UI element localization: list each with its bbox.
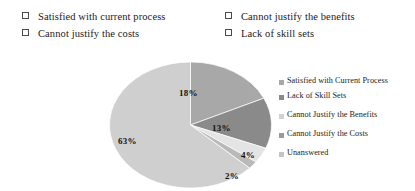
pie-slice-label-cannot-justify-benefits: 4%	[241, 150, 255, 160]
pie-slice-label-lack-of-skill-sets: 13%	[212, 123, 231, 133]
chart-area: 18% 13% 4% 2% 63% Satisfied with Current…	[0, 58, 415, 191]
checkbox-item-cannot-justify-the-benefits[interactable]: Cannot justify the benefits	[225, 8, 355, 25]
legend-label: Lack of Skill Sets	[287, 91, 346, 101]
legend-swatch-icon	[279, 95, 284, 100]
checkbox-label: Cannot justify the costs	[38, 25, 139, 42]
checkbox-list: Satisfied with current process Cannot ju…	[0, 8, 415, 50]
pie-slice-group	[110, 62, 272, 188]
legend-item-cannot-justify-the-benefits[interactable]: Cannot Justify the Benefits	[279, 110, 415, 120]
chart-legend: Satisfied with Current Process Lack of S…	[279, 76, 415, 163]
pie-chart: 18% 13% 4% 2% 63%	[108, 61, 273, 189]
legend-swatch-icon	[279, 114, 284, 119]
checkbox-item-cannot-justify-the-costs[interactable]: Cannot justify the costs	[22, 25, 166, 42]
page-root: Satisfied with current process Cannot ju…	[0, 0, 415, 191]
checkbox-item-satisfied-with-current-process[interactable]: Satisfied with current process	[22, 8, 166, 25]
legend-label: Cannot Justify the Costs	[287, 129, 368, 139]
legend-item-cannot-justify-the-costs[interactable]: Cannot Justify the Costs	[279, 129, 415, 139]
checkbox-label: Cannot justify the benefits	[241, 8, 355, 25]
legend-item-satisfied-with-current-process[interactable]: Satisfied with Current Process	[279, 76, 415, 86]
checkbox-label: Satisfied with current process	[38, 8, 166, 25]
checkbox-label: Lack of skill sets	[241, 25, 314, 42]
legend-swatch-icon	[279, 133, 284, 138]
legend-label: Satisfied with Current Process	[287, 76, 388, 86]
legend-item-lack-of-skill-sets[interactable]: Lack of Skill Sets	[279, 91, 415, 101]
pie-slice-label-cannot-justify-costs: 2%	[225, 171, 239, 181]
legend-swatch-icon	[279, 80, 284, 85]
pie-slice-label-satisfied: 18%	[179, 88, 198, 98]
checkbox-icon[interactable]	[22, 12, 29, 19]
legend-label: Cannot Justify the Benefits	[287, 110, 377, 120]
checkbox-icon[interactable]	[22, 29, 29, 36]
checkbox-column-right: Cannot justify the benefits Lack of skil…	[225, 8, 355, 42]
legend-label: Unanswered	[287, 148, 328, 158]
checkbox-column-left: Satisfied with current process Cannot ju…	[22, 8, 166, 42]
checkbox-icon[interactable]	[225, 29, 232, 36]
pie-chart-svg	[108, 61, 273, 189]
checkbox-icon[interactable]	[225, 12, 232, 19]
pie-slice-label-unanswered: 63%	[118, 136, 137, 146]
legend-swatch-icon	[279, 152, 284, 157]
checkbox-item-lack-of-skill-sets[interactable]: Lack of skill sets	[225, 25, 355, 42]
legend-item-unanswered[interactable]: Unanswered	[279, 148, 415, 158]
